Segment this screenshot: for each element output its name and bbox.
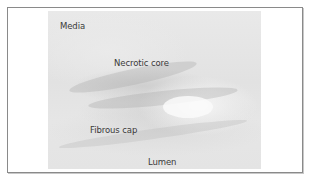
cap-tissue-streak [58, 116, 248, 152]
label-media: Media [60, 21, 85, 31]
label-necrotic-core: Necrotic core [114, 58, 169, 68]
histology-micrograph [48, 11, 261, 169]
label-fibrous-cap: Fibrous cap [90, 125, 137, 135]
lipid-pool [163, 96, 213, 118]
label-lumen: Lumen [148, 157, 176, 167]
